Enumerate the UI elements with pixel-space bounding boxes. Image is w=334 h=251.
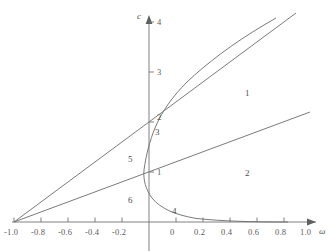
x-tick-label: -0.6 [58, 228, 72, 237]
y-tick-label: 2 [157, 113, 161, 122]
x-tick-label: 0.8 [275, 228, 286, 237]
x-tick-label: 0.4 [221, 228, 232, 237]
upper-straight-line [14, 13, 296, 222]
lower-branch-curve [144, 170, 288, 222]
region-label-5: 5 [128, 155, 133, 164]
y-axis-arrow-icon [146, 15, 153, 24]
x-tick-label: 0 [170, 228, 174, 237]
region-label-2: 2 [245, 169, 250, 178]
plot-canvas [0, 0, 334, 251]
y-tick-label: 4 [157, 18, 161, 27]
x-tick-label: 1.0 [300, 228, 311, 237]
x-tick-label: -0.8 [31, 228, 45, 237]
x-axis-name: ω [319, 227, 326, 236]
x-tick-label: -0.4 [85, 228, 99, 237]
x-axis-arrow-icon [307, 219, 316, 226]
x-axis-group [12, 218, 316, 226]
region-label-3: 3 [155, 128, 160, 137]
x-tick-label: 0.2 [194, 228, 205, 237]
y-axis-name: c [137, 12, 141, 21]
upper-branch-curve [144, 18, 276, 170]
x-tick-label: -1.0 [4, 228, 18, 237]
x-tick-label: -0.2 [112, 228, 126, 237]
y-tick-label: 1 [157, 168, 161, 177]
y-tick-label: 3 [157, 68, 161, 77]
region-label-1: 1 [245, 89, 250, 98]
region-label-6: 6 [128, 196, 133, 205]
lower-straight-line [14, 112, 310, 222]
parameter-plane-figure: c ω -1.0 -0.8 -0.6 -0.4 -0.2 0 0.2 0.4 0… [0, 0, 334, 251]
x-tick-label: 0.6 [248, 228, 259, 237]
region-label-4: 4 [172, 207, 177, 216]
